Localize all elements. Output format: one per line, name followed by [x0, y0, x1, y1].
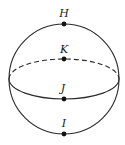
point-k-dot [62, 57, 67, 62]
point-j-dot [62, 97, 67, 102]
point-h: H [58, 7, 69, 26]
point-k-label: K [59, 43, 69, 56]
point-i-dot [62, 132, 67, 137]
sphere-diagram: H K J I [0, 0, 125, 145]
point-i: I [61, 117, 67, 136]
equator-back-dashed [9, 59, 119, 79]
point-j-label: J [59, 82, 66, 95]
point-i-label: I [61, 117, 67, 130]
point-h-label: H [58, 7, 69, 20]
sphere-svg: H K J I [0, 0, 125, 145]
point-h-dot [62, 22, 67, 27]
